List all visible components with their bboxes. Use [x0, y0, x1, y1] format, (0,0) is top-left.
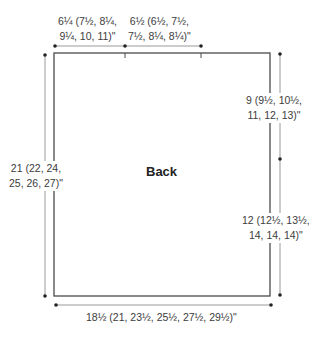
label-line: 6¼ (7½, 8¼,: [58, 14, 117, 29]
dimension-dot: [123, 44, 127, 48]
label-line: 7½, 8¼, 8¼)": [128, 29, 191, 44]
dimension-dot: [43, 294, 47, 298]
dimension-dot: [269, 303, 273, 307]
label-line: 11, 12, 13)": [246, 108, 302, 123]
dimension-dot: [199, 44, 203, 48]
left-total-length-label: 21 (22, 24, 25, 26, 27)": [9, 161, 63, 191]
dimension-dot: [278, 52, 282, 56]
dimension-dot: [53, 44, 57, 48]
upper-right-length-label: 9 (9½, 10½, 11, 12, 13)": [246, 93, 302, 123]
dimension-dot: [278, 157, 282, 161]
dimension-dot: [278, 293, 282, 297]
label-line: 21 (22, 24,: [9, 161, 63, 176]
label-line: 14, 14, 14)": [242, 228, 310, 243]
label-line: 12 (12½, 13½,: [242, 213, 310, 228]
label-line: 9¼, 10, 11)": [58, 29, 117, 44]
label-line: 18½ (21, 23½, 25½, 27½, 29½)": [86, 310, 237, 325]
dimension-dot: [54, 303, 58, 307]
lower-right-length-label: 12 (12½, 13½, 14, 14, 14)": [242, 213, 310, 243]
top-left-width-label: 6¼ (7½, 8¼, 9¼, 10, 11)": [58, 14, 117, 44]
label-line: 25, 26, 27)": [9, 176, 63, 191]
bottom-width-label: 18½ (21, 23½, 25½, 27½, 29½)": [86, 310, 237, 325]
top-right-width-label: 6½ (6½, 7½, 7½, 8¼, 8¼)": [128, 14, 191, 44]
label-line: 9 (9½, 10½,: [246, 93, 302, 108]
piece-title: Back: [146, 164, 177, 179]
label-line: 6½ (6½, 7½,: [128, 14, 191, 29]
dimension-dot: [43, 53, 47, 57]
